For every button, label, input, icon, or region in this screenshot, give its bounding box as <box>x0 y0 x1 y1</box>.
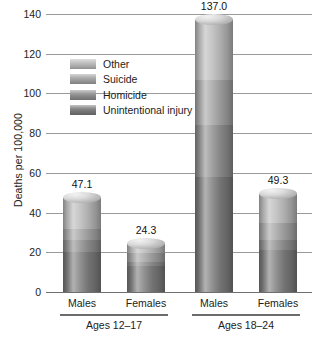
group-rule <box>60 314 168 316</box>
legend-swatch <box>70 90 96 100</box>
bar-segment <box>63 240 101 252</box>
y-axis-tick-label: 120 <box>23 48 41 60</box>
stacked-bar-chart: Deaths per 100,000 020406080100120140 47… <box>0 0 318 347</box>
bar: 49.3 <box>259 194 297 292</box>
x-axis-category-label: Males <box>200 297 228 309</box>
legend-item-label: Homicide <box>103 89 147 101</box>
cylinder-top-cap <box>127 238 165 249</box>
bar-segment <box>127 253 165 262</box>
bar-segment <box>63 198 101 229</box>
y-axis-tick-label: 20 <box>29 246 41 258</box>
chart-legend: OtherSuicideHomicideUnintentional injury <box>70 56 192 118</box>
y-axis-tick-label: 40 <box>29 207 41 219</box>
gridline <box>46 14 312 15</box>
bar-value-label: 137.0 <box>201 0 227 12</box>
legend-swatch <box>70 105 96 115</box>
legend-item: Homicide <box>70 87 192 103</box>
y-axis-title: Deaths per 100,000 <box>12 90 24 230</box>
x-axis-group-label: Ages 12–17 <box>86 319 142 331</box>
bar-segment <box>127 266 165 292</box>
y-axis-tick-label: 60 <box>29 167 41 179</box>
y-axis-tick-label: 0 <box>35 286 41 298</box>
cylinder-top-cap <box>195 14 233 25</box>
gridline <box>46 133 312 134</box>
x-axis-category-label: Females <box>126 297 166 309</box>
bar-segment <box>259 240 297 250</box>
bar-segment <box>195 80 233 126</box>
legend-item: Unintentional injury <box>70 103 192 119</box>
bar: 47.1 <box>63 198 101 292</box>
x-axis-category-label: Males <box>68 297 96 309</box>
x-axis-category-label: Females <box>258 297 298 309</box>
bar-segment <box>259 223 297 241</box>
axis-baseline <box>46 292 312 293</box>
bar-value-label: 47.1 <box>72 178 92 190</box>
bar-value-label: 24.3 <box>136 224 156 236</box>
bar-segment <box>195 125 233 177</box>
bar-segment <box>63 229 101 240</box>
y-axis-tick-label: 140 <box>23 8 41 20</box>
legend-item-label: Unintentional injury <box>103 104 192 116</box>
bar-segment <box>259 250 297 292</box>
bar-segment <box>63 252 101 292</box>
legend-swatch <box>70 59 96 69</box>
bar-segment <box>195 177 233 292</box>
bar: 24.3 <box>127 244 165 292</box>
x-axis-group-label: Ages 18–24 <box>218 319 274 331</box>
bar-segment <box>127 262 165 266</box>
gridline <box>46 54 312 55</box>
bar-segment <box>195 20 233 80</box>
legend-item: Suicide <box>70 72 192 88</box>
legend-item-label: Suicide <box>103 73 137 85</box>
legend-item-label: Other <box>103 58 129 70</box>
y-axis-tick-label: 80 <box>29 127 41 139</box>
legend-item: Other <box>70 56 192 72</box>
y-axis-tick-label: 100 <box>23 87 41 99</box>
group-rule <box>192 314 300 316</box>
legend-swatch <box>70 74 96 84</box>
bar: 137.0 <box>195 20 233 292</box>
bar-value-label: 49.3 <box>268 174 288 186</box>
